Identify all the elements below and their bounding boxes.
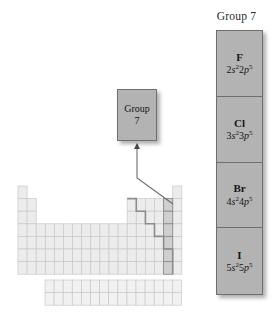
electron-configuration: 4s24p5 <box>227 196 253 208</box>
element-symbol: F <box>236 51 243 64</box>
element-symbol: Cl <box>234 117 245 130</box>
electron-configuration: 2s22p5 <box>227 64 253 76</box>
element-cell-cl: Cl 3s23p5 <box>217 97 262 163</box>
callout-label-number: 7 <box>135 115 140 127</box>
group-7-detail-panel: F 2s22p5 Cl 3s23p5 Br 4s24p5 I 5s25p5 <box>216 30 263 295</box>
element-symbol: I <box>237 249 241 262</box>
leader-polyline <box>137 148 173 204</box>
element-cell-br: Br 4s24p5 <box>217 163 262 229</box>
element-cell-i: I 5s25p5 <box>217 228 262 294</box>
callout-label-group: Group <box>124 103 150 115</box>
element-cell-f: F 2s22p5 <box>217 31 262 97</box>
figure-canvas: Group 7 Group 7 F 2s22p5 Cl 3s23p5 Br 4s… <box>0 0 275 320</box>
group-7-callout-box: Group 7 <box>117 89 157 141</box>
panel-title: Group 7 <box>198 10 275 22</box>
leader-arrowhead-icon <box>134 143 140 149</box>
electron-configuration: 3s23p5 <box>227 130 253 142</box>
electron-configuration: 5s25p5 <box>227 262 253 274</box>
element-symbol: Br <box>233 182 245 195</box>
